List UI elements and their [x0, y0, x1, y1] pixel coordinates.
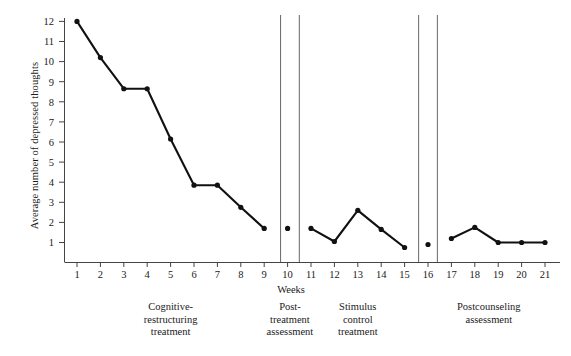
x-axis-tick-label: 9 — [262, 269, 267, 280]
data-point — [145, 86, 150, 91]
data-point — [449, 236, 454, 241]
data-point — [332, 239, 337, 244]
data-point — [191, 183, 196, 188]
data-point — [355, 208, 360, 213]
data-point — [121, 86, 126, 91]
data-point — [496, 240, 501, 245]
y-axis-tick-label: 7 — [49, 117, 54, 128]
x-axis-tick-label: 7 — [215, 269, 220, 280]
x-axis-tick-label: 6 — [191, 269, 196, 280]
x-axis-tick-label: 19 — [493, 269, 504, 280]
x-axis-tick-label: 10 — [282, 269, 293, 280]
x-axis-tick-label: 14 — [376, 269, 387, 280]
data-point — [402, 245, 407, 250]
y-axis-tick-label: 3 — [49, 197, 54, 208]
y-axis-tick-label: 5 — [49, 157, 54, 168]
y-axis-tick-label: 1 — [49, 237, 54, 248]
x-axis-tick-label: 18 — [470, 269, 481, 280]
y-axis-tick-label: 4 — [49, 177, 55, 188]
x-axis-tick-label: 2 — [98, 269, 103, 280]
x-axis-tick-label: 11 — [306, 269, 316, 280]
y-axis-tick-label: 10 — [44, 56, 55, 67]
data-line — [311, 210, 405, 247]
chart-figure: Average number of depressed thoughts 123… — [0, 0, 571, 356]
x-axis-tick-label: 1 — [74, 269, 79, 280]
phase-label-line: treatment — [116, 326, 226, 339]
data-point — [215, 183, 220, 188]
data-point — [168, 136, 173, 141]
y-axis-tick-label: 11 — [44, 36, 54, 47]
x-axis-tick-label: 16 — [423, 269, 434, 280]
phase-label-line: restructuring — [116, 314, 226, 327]
x-axis-tick-label: 17 — [446, 269, 457, 280]
x-axis-tick-label: 20 — [516, 269, 527, 280]
y-axis-tick-label: 8 — [49, 97, 54, 108]
data-point — [519, 240, 524, 245]
y-axis-tick-label: 2 — [49, 217, 54, 228]
y-axis-title: Average number of depressed thoughts — [29, 46, 40, 246]
phase-label-cognitive-restructuring: Cognitive-restructuringtreatment — [116, 301, 226, 339]
data-point — [542, 240, 547, 245]
data-point — [285, 226, 290, 231]
y-axis-tick-label: 9 — [49, 77, 54, 88]
x-axis-tick-label: 5 — [168, 269, 173, 280]
data-point — [379, 227, 384, 232]
data-line — [77, 21, 264, 228]
y-axis-tick-label: 6 — [49, 137, 54, 148]
data-point — [238, 205, 243, 210]
phase-label-stimulus-control: Stimuluscontroltreatment — [303, 301, 413, 339]
x-axis-tick-label: 15 — [399, 269, 410, 280]
data-point — [308, 226, 313, 231]
phase-label-line: Cognitive- — [116, 301, 226, 314]
x-axis-tick-label: 3 — [121, 269, 126, 280]
x-axis-tick-label: 13 — [353, 269, 364, 280]
phase-label-line: Postcounseling — [434, 301, 544, 314]
x-axis-tick-label: 4 — [145, 269, 151, 280]
data-point — [74, 19, 79, 24]
x-axis-tick-label: 12 — [329, 269, 340, 280]
x-axis-tick-label: 8 — [238, 269, 243, 280]
phase-label-postcounseling: Postcounselingassessment — [434, 301, 544, 326]
data-point — [262, 226, 267, 231]
y-axis-tick-label: 12 — [44, 16, 55, 27]
data-point — [425, 242, 430, 247]
data-point — [472, 225, 477, 230]
phase-label-line: assessment — [434, 314, 544, 327]
x-axis-title: Weeks — [231, 284, 351, 295]
x-axis-tick-label: 21 — [540, 269, 551, 280]
phase-label-line: control — [303, 314, 413, 327]
phase-label-line: Stimulus — [303, 301, 413, 314]
data-point — [98, 55, 103, 60]
phase-label-line: treatment — [303, 326, 413, 339]
